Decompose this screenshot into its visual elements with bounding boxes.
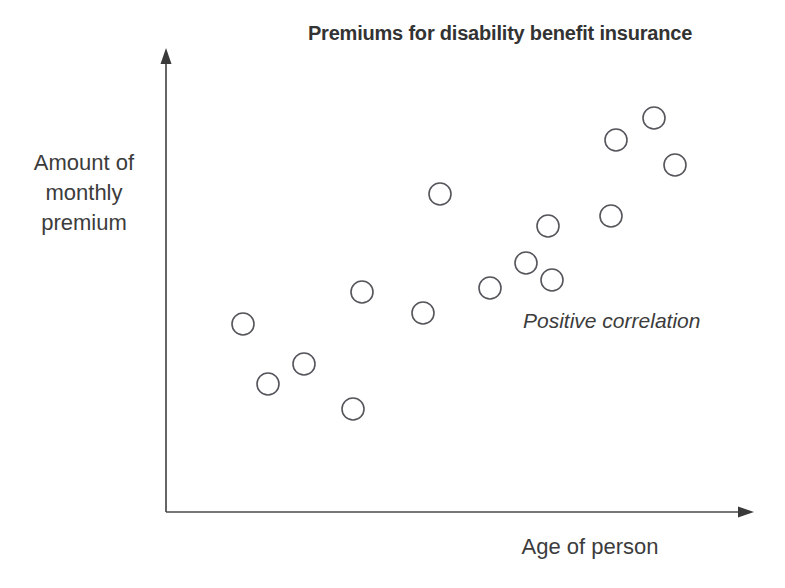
chart-figure: Premiums for disability benefit insuranc…: [0, 0, 785, 588]
plot-area: [0, 0, 785, 588]
data-point: [293, 353, 315, 375]
data-point: [643, 107, 665, 129]
data-point: [664, 154, 686, 176]
data-point: [537, 215, 559, 237]
data-point: [479, 277, 501, 299]
data-point: [605, 129, 627, 151]
data-point: [429, 183, 451, 205]
x-axis-arrow-icon: [738, 507, 754, 518]
data-point: [351, 281, 373, 303]
data-point: [412, 302, 434, 324]
data-point: [257, 373, 279, 395]
data-point: [515, 252, 537, 274]
y-axis-arrow-icon: [161, 48, 172, 64]
data-point: [342, 398, 364, 420]
data-point: [541, 269, 563, 291]
data-point: [232, 313, 254, 335]
data-points-group: [232, 107, 686, 420]
data-point: [600, 205, 622, 227]
